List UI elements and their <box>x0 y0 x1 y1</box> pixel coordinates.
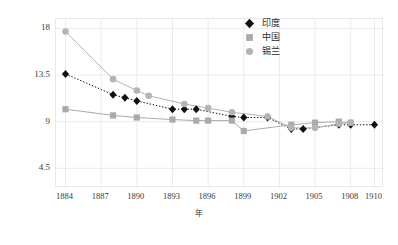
data-point-1 <box>241 128 247 134</box>
y-axis-tick-label: 13.5 <box>2 69 50 79</box>
data-point-2 <box>181 101 188 108</box>
data-point-2 <box>134 87 141 94</box>
square-marker-icon <box>243 31 256 44</box>
y-axis-tick-label: 4.5 <box>2 162 50 172</box>
plot-area <box>55 18 383 187</box>
chart-legend: 印度中国锡兰 <box>243 16 280 58</box>
legend-item-label: 印度 <box>262 16 280 30</box>
data-point-0 <box>300 125 307 133</box>
data-point-0 <box>133 97 140 105</box>
x-axis-tick-label: 1908 <box>341 191 358 201</box>
x-axis-tick-label: 1902 <box>270 191 287 201</box>
data-point-2 <box>347 119 354 126</box>
data-point-2 <box>312 125 319 132</box>
x-axis-title: 年 <box>0 207 398 218</box>
data-point-1 <box>205 118 211 124</box>
data-point-0 <box>62 70 69 78</box>
data-point-2 <box>336 120 343 127</box>
x-axis-tick-label: 1890 <box>127 191 144 201</box>
data-point-0 <box>169 105 176 113</box>
x-axis-tick-label: 1884 <box>56 191 73 201</box>
y-axis-tick-label: 18 <box>2 22 50 32</box>
legend-item[interactable]: 中国 <box>243 30 280 44</box>
legend-item[interactable]: 锡兰 <box>243 44 280 58</box>
data-point-2 <box>205 105 212 112</box>
data-point-2 <box>264 113 271 120</box>
legend-item[interactable]: 印度 <box>243 16 280 30</box>
data-point-1 <box>229 118 235 124</box>
x-axis-tick-label: 1896 <box>199 191 216 201</box>
plot-svg <box>56 19 384 188</box>
data-point-2 <box>110 76 117 83</box>
circle-marker-icon <box>243 45 256 58</box>
data-point-2 <box>229 109 236 116</box>
data-point-1 <box>62 106 68 112</box>
x-axis-tick-label: 1899 <box>234 191 251 201</box>
data-point-2 <box>288 125 295 132</box>
data-point-2 <box>145 92 152 99</box>
data-point-1 <box>110 112 116 118</box>
legend-item-label: 锡兰 <box>262 44 280 58</box>
data-point-0 <box>109 91 116 99</box>
data-point-1 <box>169 116 175 122</box>
chart-container: 4.5913.518 18841887189018931896189919021… <box>0 0 398 245</box>
data-point-1 <box>134 114 140 120</box>
data-point-0 <box>240 113 247 121</box>
y-axis-tick-label: 9 <box>2 116 50 126</box>
data-point-2 <box>62 28 69 35</box>
diamond-marker-icon <box>243 17 256 30</box>
data-point-0 <box>121 94 128 102</box>
legend-item-label: 中国 <box>262 30 280 44</box>
x-axis-tick-label: 1893 <box>163 191 180 201</box>
data-point-1 <box>193 118 199 124</box>
x-axis-tick-label: 1910 <box>365 191 382 201</box>
x-axis-tick-label: 1905 <box>306 191 323 201</box>
x-axis-tick-label: 1887 <box>92 191 109 201</box>
